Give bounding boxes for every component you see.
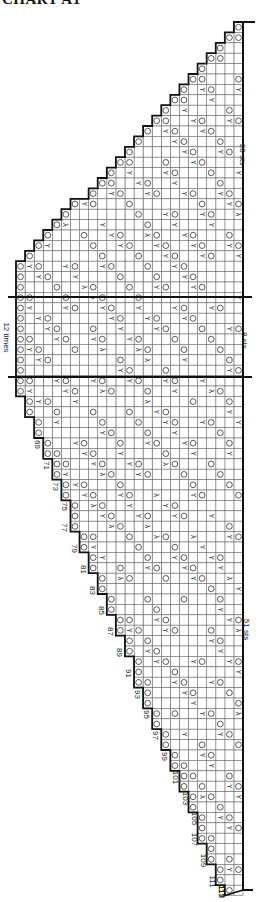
svg-text:Y: Y (107, 232, 115, 238)
svg-text:Y: Y (225, 783, 233, 789)
svg-text:Y: Y (98, 554, 106, 560)
svg-text:Y: Y (198, 211, 206, 217)
svg-text:Y: Y (52, 419, 60, 425)
svg-text:Y: Y (207, 222, 215, 228)
svg-text:Y: Y (198, 128, 206, 134)
svg-text:Y: Y (89, 544, 97, 550)
svg-text:Y: Y (234, 586, 242, 592)
svg-text:Y: Y (180, 440, 188, 446)
svg-text:Y: Y (225, 118, 233, 124)
svg-text:Y: Y (180, 357, 188, 363)
row-number-label: 101 (172, 771, 181, 784)
svg-text:Y: Y (180, 690, 188, 696)
svg-text:Y: Y (189, 118, 197, 124)
svg-text:Y: Y (216, 565, 224, 571)
row-number-label: 81 (79, 565, 88, 574)
svg-text:Y: Y (225, 825, 233, 831)
svg-text:Y: Y (234, 419, 242, 425)
svg-text:Y: Y (189, 492, 197, 498)
svg-text:Y: Y (189, 450, 197, 456)
svg-text:λ: λ (143, 400, 151, 404)
row-number-label: 89 (115, 648, 124, 657)
row-number-label: 103 (181, 791, 190, 804)
svg-text:Y: Y (161, 211, 169, 217)
svg-text:λ: λ (152, 535, 160, 539)
svg-text:λ: λ (98, 472, 106, 476)
row-number-label: 99 (160, 752, 169, 761)
svg-text:Y: Y (225, 534, 233, 540)
svg-text:Y: Y (180, 190, 188, 196)
row-number-label: 97 (151, 731, 160, 740)
svg-text:Y: Y (216, 606, 224, 612)
svg-text:Y: Y (161, 170, 169, 176)
svg-text:Y: Y (152, 617, 160, 623)
svg-text:λ: λ (189, 535, 197, 539)
svg-text:Y: Y (134, 471, 142, 477)
svg-text:Y: Y (170, 305, 178, 311)
svg-text:Y: Y (180, 274, 188, 280)
svg-text:Y: Y (170, 263, 178, 269)
svg-text:Y: Y (189, 242, 197, 248)
svg-text:Y: Y (234, 170, 242, 176)
svg-text:Y: Y (161, 253, 169, 259)
svg-text:Y: Y (189, 575, 197, 581)
svg-text:Y: Y (125, 461, 133, 467)
svg-text:Y: Y (207, 679, 215, 685)
svg-text:Y: Y (207, 638, 215, 644)
svg-text:Y: Y (234, 794, 242, 800)
svg-text:Y: Y (25, 263, 33, 269)
svg-text:Y: Y (116, 492, 124, 498)
svg-text:Y: Y (34, 315, 42, 321)
svg-text:Y: Y (152, 326, 160, 332)
svg-text:Y: Y (225, 866, 233, 872)
svg-text:Y: Y (207, 762, 215, 768)
svg-text:Y: Y (234, 86, 242, 92)
svg-text:Y: Y (234, 669, 242, 675)
svg-text:Y: Y (71, 274, 79, 280)
svg-text:Y: Y (25, 305, 33, 311)
svg-text:Y: Y (189, 159, 197, 165)
svg-text:Y: Y (107, 190, 115, 196)
svg-text:Y: Y (143, 648, 151, 654)
svg-text:Y: Y (161, 128, 169, 134)
svg-text:Y: Y (170, 180, 178, 186)
svg-text:Y: Y (180, 315, 188, 321)
svg-text:Y: Y (225, 617, 233, 623)
svg-text:Y: Y (225, 658, 233, 664)
svg-text:Y: Y (198, 378, 206, 384)
row-number-label: 77 (60, 523, 69, 532)
row-number-label: 73 (51, 482, 60, 491)
row-number-label: 69 (33, 440, 42, 449)
svg-text:Y: Y (180, 107, 188, 113)
row-number-label: 85 (97, 606, 106, 615)
svg-text:Y: Y (207, 513, 215, 519)
svg-text:Y: Y (225, 367, 233, 373)
svg-text:Y: Y (225, 201, 233, 207)
svg-text:Y: Y (198, 544, 206, 550)
svg-text:λ: λ (107, 524, 115, 528)
repeat-stitch-count-label: 8 sts (240, 332, 249, 349)
svg-text:λ: λ (234, 712, 242, 716)
svg-text:Y: Y (170, 430, 178, 436)
svg-text:Y: Y (189, 700, 197, 706)
svg-text:Y: Y (61, 305, 69, 311)
svg-text:Y: Y (80, 450, 88, 456)
svg-text:Y: Y (170, 388, 178, 394)
svg-text:Y: Y (180, 731, 188, 737)
row-number-label: 111 (207, 875, 216, 887)
svg-text:Y: Y (116, 450, 124, 456)
svg-text:Y: Y (216, 731, 224, 737)
svg-text:Y: Y (152, 658, 160, 664)
svg-text:λ: λ (116, 576, 124, 580)
svg-text:Y: Y (71, 482, 79, 488)
svg-text:Y: Y (98, 513, 106, 519)
row-number-label: 109 (199, 854, 208, 867)
svg-text:λ: λ (98, 389, 106, 393)
svg-text:Y: Y (180, 565, 188, 571)
svg-text:Y: Y (161, 502, 169, 508)
svg-text:Y: Y (152, 242, 160, 248)
row-number-label: 95 (142, 710, 151, 719)
svg-text:Y: Y (143, 565, 151, 571)
svg-text:Y: Y (170, 679, 178, 685)
svg-text:Y: Y (116, 367, 124, 373)
